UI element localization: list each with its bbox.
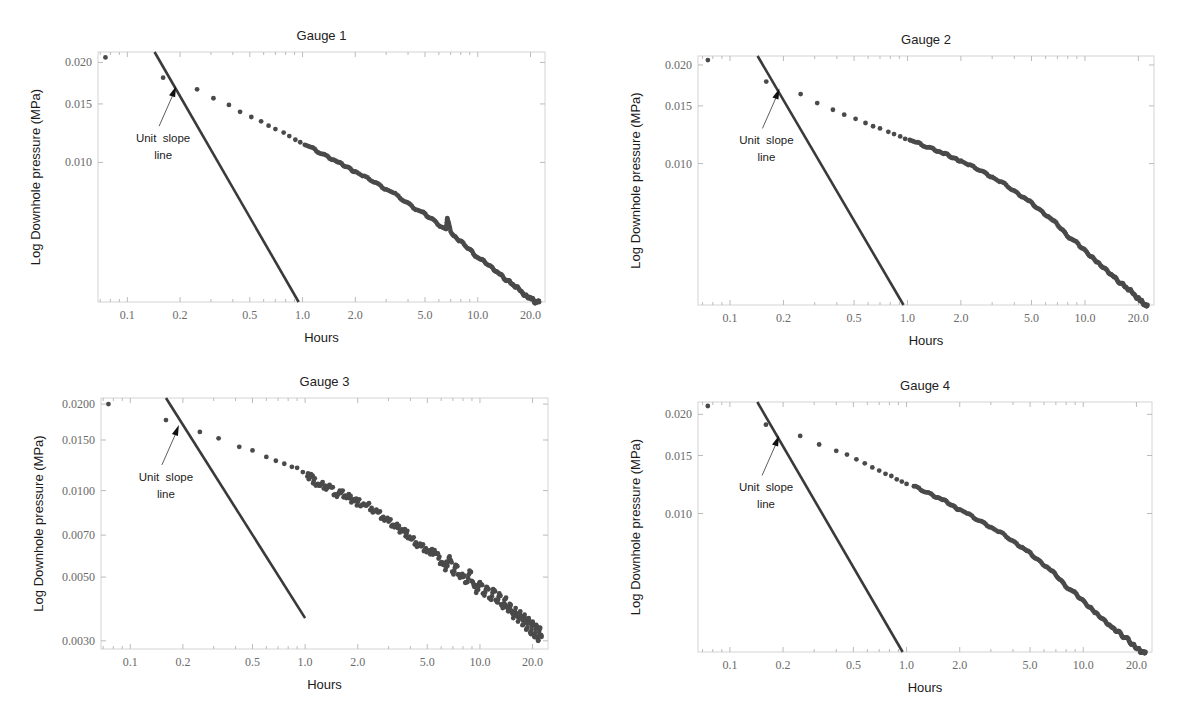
data-point <box>854 457 859 462</box>
y-tick-label: 0.020 <box>665 407 692 421</box>
annotation-arrow-shaft <box>762 441 777 475</box>
data-point <box>705 404 710 409</box>
x-tick-label: 10.0 <box>1073 658 1094 672</box>
x-tick-label: 1.0 <box>899 658 914 672</box>
data-points <box>705 404 1147 656</box>
data-point <box>883 471 888 476</box>
x-tick-label: 0.2 <box>776 658 791 672</box>
x-tick-label: 0.5 <box>846 658 861 672</box>
data-point <box>834 448 839 453</box>
annotation-text-line2: line <box>757 498 775 510</box>
chart-title: Gauge 4 <box>900 378 950 393</box>
chart-gauge-4: 0.10.20.51.02.05.010.020.00.0200.0150.01… <box>0 0 1184 719</box>
data-point <box>870 465 875 470</box>
data-point <box>798 434 803 439</box>
data-point <box>1143 650 1148 655</box>
x-tick-label: 20.0 <box>1126 658 1147 672</box>
data-point <box>817 442 822 447</box>
plot-frame <box>698 402 1152 652</box>
x-tick-label: 5.0 <box>1023 658 1038 672</box>
data-point <box>894 477 899 482</box>
data-point <box>904 482 909 487</box>
x-tick-label: 2.0 <box>952 658 967 672</box>
y-tick-label: 0.015 <box>665 449 692 463</box>
x-tick-label: 0.1 <box>722 658 737 672</box>
data-point <box>845 452 850 457</box>
annotation-arrowhead-icon <box>772 435 779 446</box>
unit-slope-line <box>757 402 902 652</box>
data-point <box>764 422 769 427</box>
data-point <box>899 479 904 484</box>
x-axis-label: Hours <box>908 680 943 695</box>
y-tick-label: 0.010 <box>665 507 692 521</box>
annotation-text-line1: Unit slope <box>739 481 793 493</box>
data-point <box>889 474 894 479</box>
chart-panel-gauge-4: 0.10.20.51.02.05.010.020.00.0200.0150.01… <box>0 0 1184 719</box>
y-axis-label: Log Downhole pressure (MPa) <box>628 439 643 615</box>
data-point <box>862 461 867 466</box>
data-point <box>877 468 882 473</box>
